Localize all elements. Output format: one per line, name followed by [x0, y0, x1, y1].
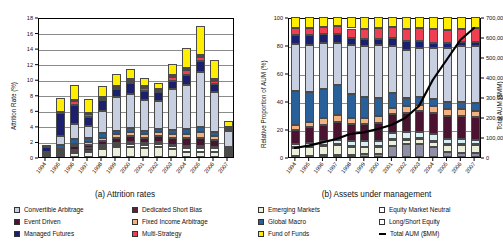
x-tick-label: 2000: [119, 161, 131, 175]
legend-row: Fund of FundsTotal AUM ($MM): [258, 228, 501, 240]
legend-item-fixed-income-arbitrage[interactable]: Fixed Income Arbitrage: [132, 219, 250, 225]
x-tick-label: 2004: [175, 161, 187, 175]
legend-label: Total AUM ($MM): [390, 231, 439, 237]
legend-item-long-short-equity[interactable]: Long/Short Equity: [379, 219, 500, 225]
x-tick-label: 2007: [217, 161, 229, 175]
y2-tick-label: 200,000: [486, 115, 503, 121]
legend-row: Managed FuturesMulti-Strategy: [14, 228, 250, 240]
y2-tick-label: 100,000: [486, 135, 503, 141]
x-tick-label: 1996: [63, 161, 75, 175]
legend-label: Managed Futures: [24, 231, 74, 237]
legend-swatch-icon: [379, 219, 385, 225]
legend-item-managed-futures[interactable]: Managed Futures: [14, 231, 132, 237]
figure-container: Attrition Rate (%) 024681012141618199419…: [0, 0, 503, 250]
legend-swatch-icon: [14, 231, 20, 237]
x-tick-label: 2002: [395, 161, 407, 175]
x-tick-label: 1999: [105, 161, 117, 175]
left-panel-caption: (a) Attrition rates: [0, 190, 250, 199]
y2-tick-label: 300,000: [486, 95, 503, 101]
legend-item-global-macro[interactable]: Global Macro: [258, 219, 379, 225]
x-tick-label: 2000: [368, 161, 380, 175]
right-axis-decorations: 0204060801000100,000200,000300,000400,00…: [250, 0, 503, 188]
y-tick-label: 100: [274, 15, 283, 21]
y-tick-label: 20: [277, 127, 283, 133]
y-tick-label: 8: [30, 93, 33, 99]
panel-attrition-rates: Attrition Rate (%) 024681012141618199419…: [0, 0, 250, 188]
x-tick-label: 1995: [49, 161, 61, 175]
y-tick-label: 0: [30, 155, 33, 161]
x-tick-label: 2005: [189, 161, 201, 175]
x-tick-label: 1995: [299, 161, 311, 175]
x-tick-label: 1998: [91, 161, 103, 175]
panel-assets-under-management: Relative Proportion of AUM (%) Total AUM…: [250, 0, 503, 188]
legend-label: Multi-Strategy: [142, 231, 181, 237]
legend-swatch-icon: [14, 219, 20, 225]
legend-item-fund-of-funds[interactable]: Fund of Funds: [258, 231, 379, 237]
left-axis-decorations: 0246810121416181994199519961997199819992…: [0, 0, 250, 188]
legend-item-emerging-markets[interactable]: Emerging Markets: [258, 207, 379, 213]
legend-row: Emerging MarketsEquity Market Neutral: [258, 204, 501, 216]
x-tick-label: 2004: [423, 161, 435, 175]
x-tick-label: 2006: [450, 161, 462, 175]
legend-swatch-icon: [258, 231, 264, 237]
legend-label: Fund of Funds: [268, 231, 309, 237]
y-tick-label: 14: [27, 46, 33, 52]
x-tick-label: 1996: [312, 161, 324, 175]
y-tick-label: 6: [30, 108, 33, 114]
y-tick-label: 4: [30, 124, 33, 130]
x-tick-label: 2001: [133, 161, 145, 175]
legend-label: Fixed Income Arbitrage: [142, 219, 208, 225]
legend-attrition: Convertible ArbitrageDedicated Short Bia…: [14, 204, 250, 240]
legend-swatch-icon: [14, 207, 20, 213]
legend-swatch-icon: [258, 207, 264, 213]
legend-item-equity-market-neutral[interactable]: Equity Market Neutral: [379, 207, 500, 213]
y-tick-label: 16: [27, 31, 33, 37]
legend-item-convertible-arbitrage[interactable]: Convertible Arbitrage: [14, 207, 132, 213]
y-tick-label: 18: [27, 15, 33, 21]
x-tick-label: 1994: [35, 161, 47, 175]
legend-row: Event DrivenFixed Income Arbitrage: [14, 216, 250, 228]
x-tick-label: 2003: [161, 161, 173, 175]
legend-item-dedicated-short-bias[interactable]: Dedicated Short Bias: [132, 207, 250, 213]
y-tick-label: 0: [280, 155, 283, 161]
y2-tick-label: 700,000: [486, 15, 503, 21]
legend-swatch-icon: [379, 207, 385, 213]
legend-label: Dedicated Short Bias: [142, 207, 202, 213]
legend-aum: Emerging MarketsEquity Market NeutralGlo…: [258, 204, 501, 240]
legend-row: Convertible ArbitrageDedicated Short Bia…: [14, 204, 250, 216]
legend-line-icon: [379, 233, 386, 235]
x-tick-label: 2007: [464, 161, 476, 175]
y2-tick-label: 600,000: [486, 35, 503, 41]
legend-label: Long/Short Equity: [389, 219, 440, 225]
x-tick-label: 2006: [203, 161, 215, 175]
x-tick-label: 1999: [354, 161, 366, 175]
x-tick-label: 1997: [326, 161, 338, 175]
y-tick-label: 40: [277, 99, 283, 105]
legend-swatch-icon: [132, 219, 138, 225]
right-panel-caption: (b) Assets under management: [250, 190, 503, 199]
legend-item-event-driven[interactable]: Event Driven: [14, 219, 132, 225]
legend-label: Emerging Markets: [268, 207, 320, 213]
y-tick-label: 10: [27, 77, 33, 83]
y-tick-label: 2: [30, 139, 33, 145]
y2-tick-label: 400,000: [486, 75, 503, 81]
y-tick-label: 60: [277, 71, 283, 77]
legend-row: Global MacroLong/Short Equity: [258, 216, 501, 228]
legend-swatch-icon: [132, 207, 138, 213]
total-aum-line: [295, 28, 474, 148]
legend-label: Event Driven: [24, 219, 61, 225]
x-tick-label: 2002: [147, 161, 159, 175]
legend-item-multi-strategy[interactable]: Multi-Strategy: [132, 231, 250, 237]
x-tick-label: 2005: [436, 161, 448, 175]
x-tick-label: 1997: [77, 161, 89, 175]
legend-item-total-aum-mm[interactable]: Total AUM ($MM): [379, 231, 500, 237]
legend-swatch-icon: [258, 219, 264, 225]
y-tick-label: 80: [277, 43, 283, 49]
y2-tick-label: 500,000: [486, 55, 503, 61]
x-tick-label: 1994: [285, 161, 297, 175]
legend-swatch-icon: [132, 231, 138, 237]
legend-label: Equity Market Neutral: [389, 207, 450, 213]
x-tick-label: 1998: [340, 161, 352, 175]
x-tick-label: 2003: [409, 161, 421, 175]
y2-tick-label: 0: [486, 155, 489, 161]
